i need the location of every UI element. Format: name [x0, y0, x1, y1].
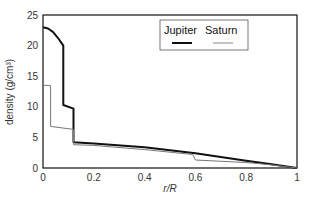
y-axis-label: density (g/cm³) [4, 59, 15, 125]
legend-label-saturn: Saturn [205, 24, 237, 36]
legend: Jupiter Saturn [160, 20, 248, 50]
x-axis-ticks: 00.20.40.60.81 [40, 172, 300, 183]
x-tick-label: 0 [40, 172, 46, 183]
legend-label-jupiter: Jupiter [164, 24, 197, 36]
x-tick-label: 0.2 [87, 172, 101, 183]
density-chart: 0510152025 00.20.40.60.81 r/R density (g… [0, 0, 311, 203]
x-tick-label: 1 [294, 172, 300, 183]
x-tick-label: 0.6 [188, 172, 202, 183]
y-tick-label: 20 [27, 40, 39, 51]
x-axis-label: r/R [163, 183, 176, 194]
x-tick-label: 0.8 [239, 172, 253, 183]
y-axis-ticks: 0510152025 [27, 10, 39, 174]
series-line-saturn [43, 85, 297, 168]
y-tick-label: 15 [27, 71, 39, 82]
y-tick-label: 10 [27, 101, 39, 112]
y-tick-label: 0 [32, 163, 38, 174]
y-tick-label: 5 [32, 132, 38, 143]
x-tick-label: 0.4 [138, 172, 152, 183]
y-tick-label: 25 [27, 10, 39, 21]
